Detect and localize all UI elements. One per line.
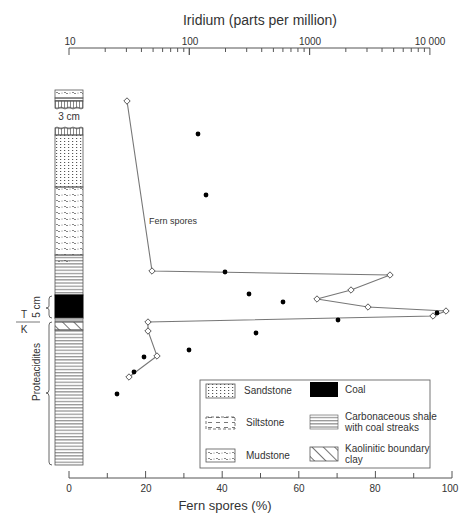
top-axis: Iridium (parts per million) 10 100 1000 … — [64, 12, 445, 55]
bottom-tick-80: 80 — [369, 483, 381, 494]
fern-spores-point — [149, 268, 155, 274]
top-tick-100: 100 — [182, 36, 199, 47]
iridium-point — [254, 331, 259, 336]
chart-canvas: Iridium (parts per million) 10 100 1000 … — [0, 0, 469, 519]
iridium-point — [204, 193, 209, 198]
iridium-point — [247, 292, 252, 297]
legend-clay-line1: Kaolinitic boundary — [345, 443, 430, 454]
iridium-point — [187, 348, 192, 353]
coal-swatch — [310, 382, 338, 397]
legend-siltstone: Siltstone — [246, 417, 285, 428]
iridium-point — [196, 132, 201, 137]
iridium-point — [115, 392, 120, 397]
bottom-tick-100: 100 — [442, 483, 459, 494]
legend-mudstone: Mudstone — [246, 450, 290, 461]
bottom-tick-20: 20 — [140, 483, 152, 494]
legend: Sandstone Coal Siltstone Carbonaceous sh… — [200, 380, 437, 468]
legend-shale-line2: with coal streaks — [344, 422, 419, 433]
sandstone-swatch — [206, 384, 235, 398]
bottom-tick-60: 60 — [293, 483, 305, 494]
top-tick-10: 10 — [64, 36, 76, 47]
bottom-tick-0: 0 — [66, 483, 72, 494]
legend-sandstone: Sandstone — [244, 385, 292, 396]
fern-spores-point — [387, 272, 393, 278]
fern-spores-point — [365, 304, 371, 310]
top-tick-1000: 1000 — [299, 36, 322, 47]
iridium-point — [435, 311, 440, 316]
mudstone-swatch — [206, 449, 235, 462]
fern-spores-point — [124, 98, 130, 104]
fern-spores-point — [145, 328, 151, 334]
gap-label: 3 cm — [58, 111, 80, 122]
legend-shale-line1: Carbonaceous shale — [345, 411, 437, 422]
strat-column: 3 cm 5 cm T K Proteacidites — [16, 90, 83, 465]
iridium-point — [142, 355, 147, 360]
iridium-point — [223, 270, 228, 275]
clay-swatch — [310, 447, 338, 461]
coal-thickness-label: 5 cm — [31, 296, 42, 318]
fern-spores-point — [145, 319, 151, 325]
shale-swatch — [310, 415, 338, 429]
fern-spores-series — [124, 98, 449, 380]
top-axis-title: Iridium (parts per million) — [183, 12, 337, 28]
proteacidites-label: Proteacidites — [31, 343, 42, 401]
bottom-tick-40: 40 — [216, 483, 228, 494]
siltstone-swatch — [206, 417, 235, 429]
legend-clay-line2: clay — [345, 454, 363, 465]
fern-spores-point — [314, 296, 320, 302]
tertiary-label: T — [21, 309, 27, 320]
iridium-series — [115, 132, 440, 397]
top-tick-10000: 10 000 — [415, 36, 446, 47]
iridium-point — [336, 318, 341, 323]
bottom-axis-title: Fern spores (%) — [178, 498, 271, 513]
fern-spores-point — [443, 308, 449, 314]
bottom-axis: 0 20 40 60 80 100 Fern spores (%) — [66, 471, 459, 513]
fern-spores-point — [348, 287, 354, 293]
cretaceous-label: K — [21, 324, 28, 335]
fern-spores-annotation: Fern spores — [149, 216, 198, 226]
iridium-point — [281, 300, 286, 305]
iridium-point — [132, 370, 137, 375]
legend-coal: Coal — [345, 384, 366, 395]
